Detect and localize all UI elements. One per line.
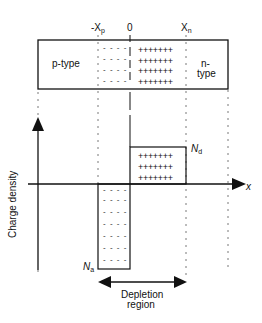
depletion-label-line2: region bbox=[127, 299, 155, 310]
svg-text:+++++++: +++++++ bbox=[138, 151, 173, 161]
svg-text:- - - -: - - - - bbox=[103, 43, 127, 52]
svg-text:- - - -: - - - - bbox=[103, 76, 127, 85]
svg-text:- - - -: - - - - bbox=[103, 219, 127, 228]
svg-text:- - - -: - - - - bbox=[103, 185, 127, 194]
svg-text:- - - -: - - - - bbox=[103, 231, 127, 240]
depletion-left-arrow-icon bbox=[98, 276, 111, 288]
pn-junction-diagram: -Xp 0 Xn p-type n- type - - - - - - - - … bbox=[0, 0, 262, 323]
n-type-label-line2: type bbox=[197, 68, 216, 79]
svg-text:- - - -: - - - - bbox=[103, 54, 127, 63]
nd-label: Nd bbox=[191, 143, 202, 155]
donor-charges: +++++++ +++++++ +++++++ bbox=[138, 151, 173, 183]
na-label: Na bbox=[83, 261, 94, 273]
svg-text:+++++++: +++++++ bbox=[138, 173, 173, 183]
x-axis-arrow-icon bbox=[232, 178, 246, 190]
zero-label: 0 bbox=[127, 22, 133, 33]
p-type-label: p-type bbox=[52, 58, 80, 69]
y-axis-label: Charge density bbox=[7, 171, 18, 238]
depletion-right-arrow-icon bbox=[174, 276, 187, 288]
svg-text:- - - -: - - - - bbox=[103, 255, 127, 264]
junction-negative-charges: - - - - - - - - - - - - - - - - bbox=[103, 43, 127, 85]
x-axis-label: x bbox=[245, 181, 252, 192]
svg-text:+++++++: +++++++ bbox=[138, 77, 173, 87]
svg-text:+++++++: +++++++ bbox=[138, 66, 173, 76]
xn-label: Xn bbox=[181, 22, 192, 34]
junction-positive-charges: +++++++ +++++++ +++++++ +++++++ bbox=[138, 45, 173, 87]
svg-text:- - - -: - - - - bbox=[103, 65, 127, 74]
neg-xp-label: -Xp bbox=[91, 22, 105, 35]
svg-text:+++++++: +++++++ bbox=[138, 162, 173, 172]
svg-text:+++++++: +++++++ bbox=[138, 56, 173, 66]
svg-text:- - - -: - - - - bbox=[103, 243, 127, 252]
y-axis-arrow-icon bbox=[32, 117, 44, 131]
acceptor-charges: - - - - - - - - - - - - - - - - - - - - … bbox=[103, 185, 127, 264]
svg-text:- - - -: - - - - bbox=[103, 207, 127, 216]
svg-text:+++++++: +++++++ bbox=[138, 45, 173, 55]
top-position-labels: -Xp 0 Xn bbox=[91, 22, 192, 35]
svg-text:- - - -: - - - - bbox=[103, 195, 127, 204]
